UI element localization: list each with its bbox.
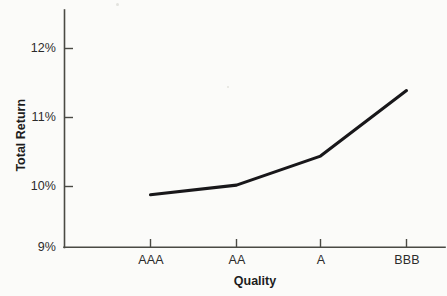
y-axis-title: Total Return — [15, 90, 28, 180]
x-axis-title: Quality — [64, 275, 446, 288]
chart-figure: 12% 11% 10% 9% AAA AA A BBB Total Return… — [0, 0, 447, 296]
scan-artifact-speck — [227, 86, 229, 88]
data-series-total-return — [151, 91, 407, 195]
x-tick-label-aa: AA — [206, 254, 268, 267]
x-tick-label-aaa: AAA — [120, 254, 182, 267]
scan-artifact-speck — [116, 3, 119, 6]
x-tick-label-bbb: BBB — [376, 254, 438, 267]
x-tick-label-a: A — [290, 254, 352, 267]
y-tick-label-12pct: 12% — [6, 42, 56, 55]
y-tick-label-10pct: 10% — [6, 180, 56, 193]
chart-plot-area — [0, 0, 447, 296]
y-tick-label-9pct: 9% — [6, 241, 56, 254]
